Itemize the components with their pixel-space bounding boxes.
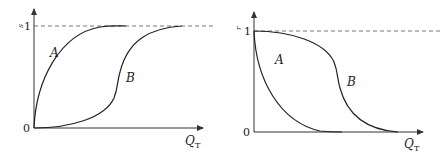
right-curve-a xyxy=(254,31,342,132)
right-curve-a-label: A xyxy=(274,53,284,67)
left-panel: s 1 0 A B Q T xyxy=(16,9,215,150)
svg-text:Q: Q xyxy=(185,134,195,148)
diagram-canvas: s 1 0 A B Q T r 1 0 A B Q T xyxy=(0,0,443,154)
right-y-label: r xyxy=(234,25,243,30)
left-curve-b xyxy=(34,26,182,128)
right-curve-b xyxy=(254,31,398,132)
left-tick-zero: 0 xyxy=(23,122,30,135)
svg-text:T: T xyxy=(414,144,420,153)
left-tick-one: 1 xyxy=(24,20,31,33)
svg-text:Q: Q xyxy=(404,137,414,151)
right-panel: r 1 0 A B Q T xyxy=(234,12,443,153)
right-curve-b-label: B xyxy=(346,75,356,89)
left-curve-b-label: B xyxy=(125,71,135,85)
left-curve-a-label: A xyxy=(49,46,59,60)
left-x-label: Q T xyxy=(185,134,201,150)
left-curve-a xyxy=(34,26,126,128)
right-tick-one: 1 xyxy=(244,25,251,38)
svg-text:T: T xyxy=(195,141,201,150)
right-x-label: Q T xyxy=(404,137,420,153)
right-tick-zero: 0 xyxy=(243,126,250,139)
